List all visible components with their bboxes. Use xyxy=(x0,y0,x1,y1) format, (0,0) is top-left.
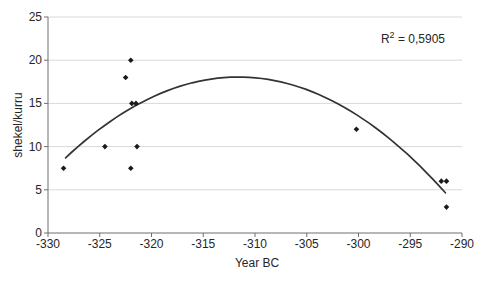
data-point xyxy=(444,178,450,184)
r-squared-value: = 0,5905 xyxy=(395,32,445,46)
data-point xyxy=(61,165,67,171)
data-point xyxy=(134,144,140,150)
x-tick-label: -290 xyxy=(450,237,474,251)
data-point xyxy=(133,101,139,107)
y-tick-label: 25 xyxy=(29,10,43,24)
y-tick-label: 15 xyxy=(29,96,43,110)
x-tick-label: -315 xyxy=(191,237,215,251)
data-point xyxy=(444,204,450,210)
data-point xyxy=(128,57,134,63)
y-tick-label: 5 xyxy=(35,183,42,197)
r-squared-symbol: R xyxy=(381,32,390,46)
x-tick-label: -320 xyxy=(139,237,163,251)
data-point xyxy=(102,144,108,150)
data-point xyxy=(354,127,360,133)
y-tick-label: 20 xyxy=(29,53,43,67)
x-tick-label: -330 xyxy=(36,237,60,251)
data-point xyxy=(439,178,445,184)
x-tick-label: -305 xyxy=(295,237,319,251)
x-tick-label: -325 xyxy=(88,237,112,251)
x-tick-label: -300 xyxy=(346,237,370,251)
data-point xyxy=(128,165,134,171)
x-tick-label: -295 xyxy=(398,237,422,251)
y-tick-label: 10 xyxy=(29,140,43,154)
r-squared-annotation: R2 = 0,5905 xyxy=(381,30,445,46)
data-point xyxy=(123,75,129,81)
x-tick-label: -310 xyxy=(243,237,267,251)
y-axis-title: shekel/kurru xyxy=(11,92,25,157)
x-axis-title: Year BC xyxy=(235,256,279,270)
trendline-curve xyxy=(66,77,446,193)
chart-figure: 0510152025-330-325-320-315-310-305-300-2… xyxy=(0,0,481,281)
